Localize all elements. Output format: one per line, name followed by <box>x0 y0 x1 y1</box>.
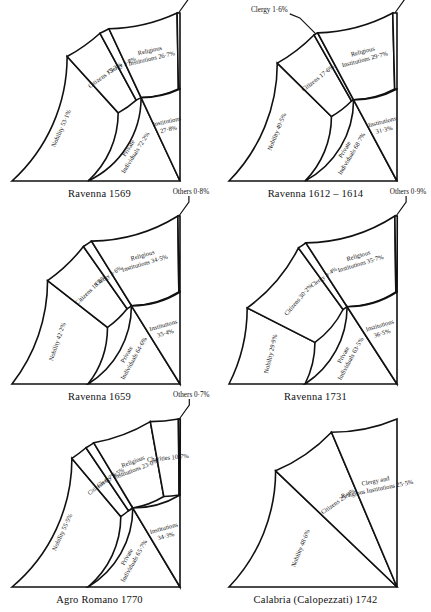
others-callout: Others 0·7% <box>173 391 210 399</box>
caption-agro-romano-1770: Agro Romano 1770 <box>12 594 187 605</box>
outer-wedge-others <box>178 216 180 292</box>
others-callout: Others 0·9% <box>390 188 427 196</box>
leader-line-others-callout <box>179 399 189 419</box>
outer-wedge-others <box>395 216 397 292</box>
chart-panel-ravenna-1731: Nobility 29·9%Citizens 30·2%Clergy 3·4%R… <box>219 211 409 391</box>
leader-line-others-callout <box>396 196 406 216</box>
caption-calabria-calopezzati-1742: Calabria (Calopezzati) 1742 <box>228 594 403 605</box>
chart-panel-calabria-calopezzati-1742: Nobility 48·6%Citizens 25·9%Clergy andRe… <box>219 414 409 594</box>
caption-ravenna-1612-1614: Ravenna 1612 – 1614 <box>228 188 403 199</box>
leader-line-others-callout <box>179 0 189 13</box>
clergy-callout: Clergy 1·6% <box>251 6 288 14</box>
figure-root: Nobility 53·1%Citizens 15·3%Clergy 3·8%R… <box>0 0 431 612</box>
caption-ravenna-1659: Ravenna 1659 <box>12 391 187 402</box>
outer-wedge-others <box>177 13 180 89</box>
others-callout: Others 0·8% <box>173 188 210 196</box>
chart-panel-ravenna-1612-1614: Nobility 49·5%Citizens 17·6%ReligiousIns… <box>219 8 409 188</box>
chart-panel-ravenna-1659: Nobility 42·2%Citizens 18·8%Clergy 3·6%R… <box>2 211 192 391</box>
leader-line-clergy-callout <box>290 14 316 34</box>
caption-ravenna-1731: Ravenna 1731 <box>228 391 403 402</box>
leader-line-others-callout <box>395 0 405 13</box>
leader-line-others-callout <box>179 196 189 216</box>
chart-panel-ravenna-1569: Nobility 53·1%Citizens 15·3%Clergy 3·8%R… <box>2 8 192 188</box>
caption-ravenna-1569: Ravenna 1569 <box>12 188 187 199</box>
chart-panel-agro-romano-1770: Nobility 55·5%Citizens 6·7%Clergy 3·5%Re… <box>2 414 192 594</box>
